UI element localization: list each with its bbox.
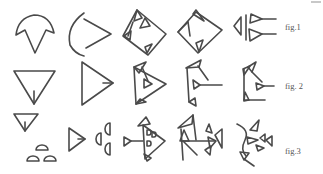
row3-glyph4-cuneiform	[178, 115, 222, 160]
row2-glyph4-cuneiform	[186, 60, 222, 106]
row3-glyph1-triangle-semicircles	[14, 114, 56, 161]
row2-glyph1-triangle	[14, 71, 55, 104]
row1-glyph4-cuneiform	[178, 10, 222, 53]
row1-glyph3-cuneiform	[123, 10, 166, 55]
fig2-label: fig. 2	[285, 81, 303, 91]
fig1-label: fig.1	[285, 22, 301, 32]
row1-glyph2-curve-wedge	[69, 13, 111, 56]
row2-glyph3-cuneiform	[134, 62, 166, 104]
fig3-label: fig.3	[285, 146, 301, 156]
row1-glyph1-arrowhead	[16, 15, 54, 53]
row1-glyph5-cuneiform	[234, 14, 276, 41]
row2-glyph5-cuneiform	[243, 62, 274, 101]
row3-glyph3-cuneiform	[124, 117, 165, 161]
cuneiform-evolution-diagram: fig.1 fig. 2 fig.3	[0, 0, 323, 174]
glyph-drawing	[0, 0, 323, 174]
row3-glyph2-triangle-semicircles	[69, 123, 110, 155]
row2-glyph2-triangle-right	[82, 62, 113, 105]
row3-glyph5-cuneiform	[237, 120, 272, 166]
